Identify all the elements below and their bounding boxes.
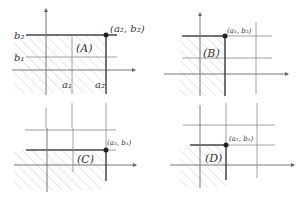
panel-label-a: (A) [76,42,93,55]
point-label-d: (a₁, b₁) [229,135,253,143]
point-a [104,33,109,38]
panel-a: (a₂, b₂) (A) b₂ b₁ a₁ a₂ [12,9,145,128]
point-label-c: (a₂, b₁) [107,139,131,147]
panel-label-b: (B) [203,47,220,60]
point-label-a: (a₂, b₂) [110,23,145,34]
panel-d: (a₁, b₁) (D) [170,103,294,188]
point-c [104,148,109,153]
panel-c: (a₂, b₁) (C) [14,128,136,192]
diagram-stage: (a₂, b₂) (A) b₂ b₁ a₁ a₂ (a₁, b₂) (B) (a… [0,0,304,202]
a2-label: a₂ [95,79,105,90]
b1-label: b₁ [14,52,24,63]
panel-b: (a₁, b₂) (B) [164,13,288,96]
panel-label-c: (C) [77,153,94,166]
shaded-region-b [180,36,225,96]
b2-label: b₂ [14,30,24,41]
point-d [224,143,229,148]
point-label-b: (a₁, b₂) [227,27,251,35]
a1-label: a₁ [62,79,72,90]
panel-label-d: (D) [205,152,222,165]
